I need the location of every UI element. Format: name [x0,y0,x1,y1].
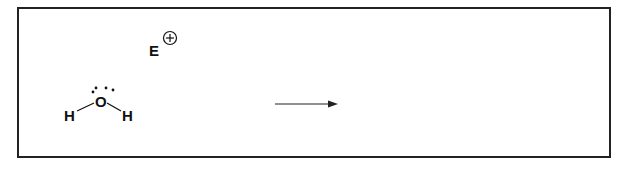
oxygen-atom: O [95,94,107,109]
hydrogen-atom-right: H [122,108,133,123]
hydrogen-atom-left: H [64,108,75,123]
reaction-arrow-icon [275,101,338,108]
bond-o-h-left [77,103,94,111]
positive-charge-icon [164,32,177,45]
diagram-graphics [0,0,631,170]
bond-o-h-right [107,103,121,111]
